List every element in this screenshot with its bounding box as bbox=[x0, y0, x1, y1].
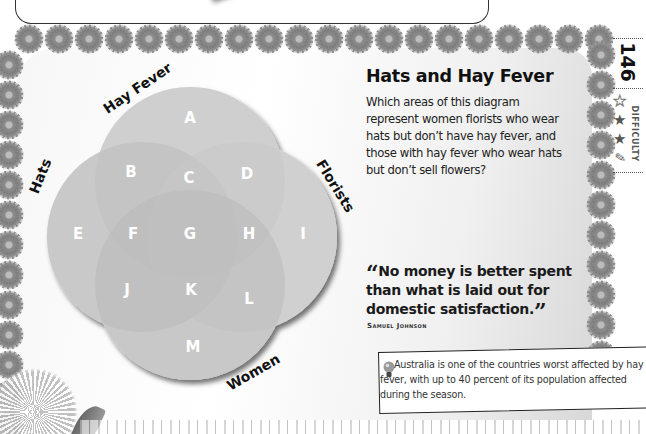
flower-decoration bbox=[586, 100, 616, 130]
region-h: H bbox=[243, 225, 256, 243]
star-filled-icon: ★ bbox=[613, 113, 626, 128]
region-d: D bbox=[241, 165, 253, 183]
region-l: L bbox=[244, 290, 254, 308]
flower-decoration bbox=[586, 190, 616, 220]
region-m: M bbox=[186, 338, 201, 356]
region-a: A bbox=[184, 109, 196, 127]
flower-decoration bbox=[494, 24, 524, 54]
flower-decoration bbox=[404, 24, 434, 54]
flower-decoration bbox=[586, 40, 616, 70]
flower-border-right bbox=[586, 40, 616, 400]
puzzle-title: Hats and Hay Fever bbox=[366, 66, 553, 86]
region-k: K bbox=[185, 281, 197, 299]
region-i: I bbox=[300, 225, 306, 243]
flower-decoration bbox=[464, 24, 494, 54]
region-j: J bbox=[124, 281, 130, 299]
flower-decoration bbox=[554, 24, 584, 54]
region-f: F bbox=[128, 225, 138, 243]
flower-decoration bbox=[586, 130, 616, 160]
star-empty-icon: ★ bbox=[613, 94, 626, 109]
fact-text: Australia is one of the countries worst … bbox=[380, 357, 646, 402]
quote-author: Samuel Johnson bbox=[367, 322, 427, 330]
flower-decoration bbox=[586, 160, 616, 190]
quote-block: “No money is better spent than what is l… bbox=[366, 262, 596, 319]
venn-circles bbox=[0, 0, 380, 434]
flower-decoration bbox=[586, 70, 616, 100]
region-e: E bbox=[73, 225, 83, 243]
puzzle-number: 146 bbox=[615, 42, 641, 82]
open-quote-mark: “ bbox=[366, 260, 378, 286]
difficulty-label: DIFFICULTY bbox=[627, 98, 643, 168]
star-filled-icon: ★ bbox=[613, 132, 626, 147]
dotted-divider bbox=[613, 172, 643, 173]
dotted-divider bbox=[613, 38, 643, 39]
flower-decoration bbox=[524, 24, 554, 54]
venn-diagram: Hay Fever Hats Florists Women A B C D E … bbox=[0, 0, 380, 434]
close-quote-mark: ” bbox=[534, 298, 546, 324]
region-b: B bbox=[125, 163, 136, 181]
flower-decoration bbox=[434, 24, 464, 54]
flower-decoration bbox=[586, 220, 616, 250]
region-c: C bbox=[183, 169, 194, 187]
puzzle-question: Which areas of this diagram represent wo… bbox=[366, 94, 571, 179]
dotted-divider bbox=[613, 88, 643, 89]
grass-border-bottom bbox=[80, 420, 646, 434]
puzzle-side-strip: 146 ★ ★ ★ DIFFICULTY ✎ bbox=[613, 38, 643, 178]
region-g: G bbox=[184, 225, 196, 243]
pencil-icon: ✎ bbox=[614, 149, 627, 166]
